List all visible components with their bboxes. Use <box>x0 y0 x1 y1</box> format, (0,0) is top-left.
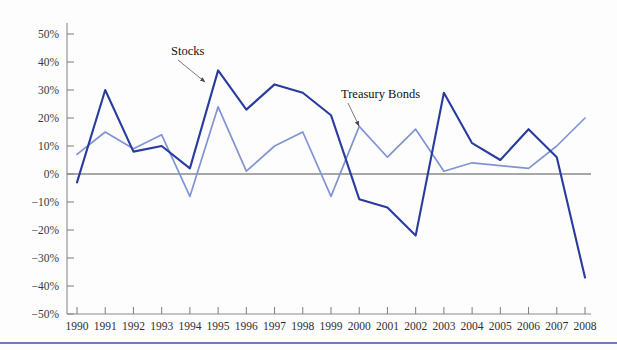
x-axis-tick-label: 1998 <box>291 320 314 332</box>
x-axis-tick-label: 2007 <box>545 320 568 332</box>
y-axis-tick-label: −10% <box>31 196 59 208</box>
x-axis-tick-label: 2006 <box>517 320 540 332</box>
y-axis-tick-label: 30% <box>38 84 60 96</box>
y-axis-tick-label: 40% <box>38 56 60 68</box>
x-axis: 1990199119921993199419951996199719981999… <box>66 307 597 332</box>
y-axis-tick-label: 0% <box>44 168 60 180</box>
chart-page: 50%40%30%20%10%0%−10%−20%−30%−40%−50% 19… <box>0 0 617 350</box>
y-axis-tick-label: −50% <box>31 308 59 320</box>
y-axis-tick-label: −40% <box>31 280 59 292</box>
y-axis-tick-label: −20% <box>31 224 59 236</box>
y-axis: 50%40%30%20%10%0%−10%−20%−30%−40%−50% <box>31 23 74 320</box>
x-axis-tick-label: 1993 <box>150 320 173 332</box>
x-axis-tick-label: 2008 <box>574 320 597 332</box>
annotation-label-treasury-bonds: Treasury Bonds <box>341 87 420 101</box>
x-axis-tick-label: 1994 <box>178 320 201 332</box>
x-axis-tick-label: 1992 <box>122 320 145 332</box>
x-axis-tick-label: 1991 <box>94 320 117 332</box>
y-axis-tick-label: 20% <box>38 112 60 124</box>
annotation-leader-line <box>178 60 205 82</box>
annotation-leader-line <box>348 103 359 126</box>
x-axis-tick-label: 2001 <box>376 320 399 332</box>
x-axis-tick-label: 1999 <box>320 320 343 332</box>
x-axis-tick-label: 2003 <box>432 320 455 332</box>
x-axis-tick-label: 2002 <box>404 320 427 332</box>
x-axis-tick-label: 1997 <box>263 320 286 332</box>
y-axis-tick-label: −30% <box>31 252 59 264</box>
series-annotations: StocksTreasury Bonds <box>171 44 420 126</box>
annotation-label-stocks: Stocks <box>171 44 204 58</box>
x-axis-tick-label: 1995 <box>207 320 230 332</box>
x-axis-tick-label: 1990 <box>66 320 89 332</box>
returns-line-chart: 50%40%30%20%10%0%−10%−20%−30%−40%−50% 19… <box>0 0 617 350</box>
x-axis-tick-label: 1996 <box>235 320 258 332</box>
x-axis-tick-label: 2005 <box>489 320 512 332</box>
y-axis-tick-label: 10% <box>38 140 60 152</box>
y-axis-tick-label: 50% <box>38 28 60 40</box>
x-axis-tick-label: 2004 <box>461 320 484 332</box>
x-axis-tick-label: 2000 <box>348 320 371 332</box>
